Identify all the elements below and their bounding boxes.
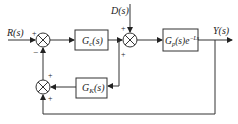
summer-1-plus-sign: + xyxy=(32,29,37,38)
summer-1-minus-sign: − xyxy=(33,47,38,57)
disturbance-label: D(s) xyxy=(110,5,129,17)
block-diagram: R(s) D(s) Y(s) Gc(s) Gp(s)e−Ls GK(s) + −… xyxy=(0,0,238,124)
summer-2-plus-top: + xyxy=(121,24,126,33)
plant-label: Gp(s)e−Ls xyxy=(165,35,200,47)
summer-3-plus-top: + xyxy=(48,71,53,80)
summer-1 xyxy=(36,33,50,47)
output-label: Y(s) xyxy=(213,25,230,37)
compensator-label: GK(s) xyxy=(82,82,105,95)
controller-label: Gc(s) xyxy=(82,35,104,48)
summer-3-plus-bottom: + xyxy=(48,94,53,103)
summer-2-plus-bottom: + xyxy=(121,50,126,59)
summer-2 xyxy=(123,33,137,47)
controller-branch-line xyxy=(108,40,119,86)
input-label: R(s) xyxy=(6,27,24,39)
summer-3 xyxy=(36,80,50,94)
